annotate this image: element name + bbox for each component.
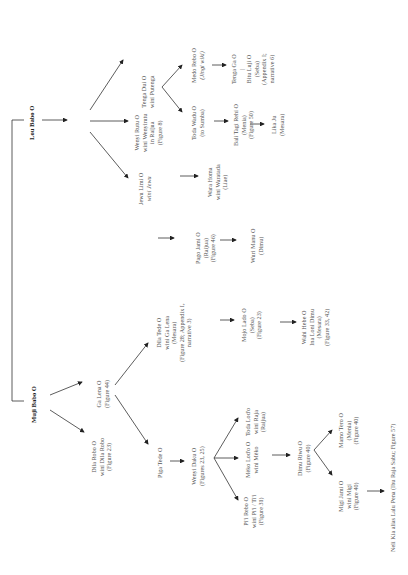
node-label: Pago Jami O [194, 232, 202, 264]
node-label: (Figure 46) [209, 232, 217, 264]
node-label: Tenga Dui O [140, 76, 148, 108]
node-label: Wara Homa [206, 164, 214, 200]
node-label: Lika Ju [270, 114, 278, 136]
node-label: (Menia) [345, 413, 353, 448]
node-label: Ina Loni Dimu [308, 309, 316, 346]
node-label: wini Jewu [145, 173, 153, 205]
node-label: Toda Wadu O [190, 106, 198, 140]
node-dimu-riwu: Dimu Riwu O (Figure 40) [296, 441, 311, 476]
node-neli-kia: Neli Kia alias Lalu Pena (Ibu Raja Sabu;… [389, 424, 397, 552]
node-bali-tagi: Bali Tagi Rehi O (Menia) (Figure 50) [232, 104, 255, 146]
node-label: Mamo Tero O [337, 413, 345, 448]
node-label: (Figure 40) [352, 413, 360, 448]
node-label: Wahi Hebe O [300, 309, 308, 346]
node-label: (Raijua) [202, 232, 210, 264]
node-label: (Figure 23) [105, 438, 113, 476]
node-label: (Figures 23, 25) [198, 446, 206, 486]
node-wara-homa: Wara Homa wini Waratada (Liae) [206, 164, 229, 200]
node-label: Neli Kia alias Lalu Pena (Ibu Raja Sabu;… [389, 424, 397, 552]
node-dila-tede: Dila Tede O wini Ga Lena (Mesara) (Figur… [155, 304, 193, 362]
node-label: wini Migi [345, 481, 353, 512]
node-meko-lodo: Mèko Lod'o O wini Mèko [244, 442, 259, 478]
node-label: wini Pi'i / Ti'i [250, 495, 258, 528]
root-bracket-line [12, 120, 24, 401]
node-label: (Figure 40) [304, 441, 312, 476]
node-mamo-tero: Mamo Tero O (Menia) (Figure 40) [337, 413, 360, 448]
node-label: Dila Robo O [90, 438, 98, 476]
node-label: (Seba) [253, 53, 261, 85]
node-label: Bali Tagi Rehi O [232, 104, 240, 146]
node-toda-wadu: Toda Wadu O (to Sumba) [190, 106, 205, 140]
node-toda-lodo: Toda Lod'o wini Raja (Raijua) [244, 408, 267, 436]
node-label: wini Ga Lena [163, 304, 171, 362]
node-label: wini Mèko [252, 442, 260, 478]
node-label: (Figure 31) [257, 495, 265, 528]
node-label: (Figure 44) [103, 380, 111, 408]
node-label: Mojo Lado O [240, 308, 248, 342]
node-label: wini Dila Robo [98, 438, 106, 476]
node-label: Wuri Manu O [249, 229, 257, 263]
node-label: (Figure 28; Appendix I, [178, 304, 186, 362]
node-label: (Liae) [221, 164, 229, 200]
node-tenga-ga: Tenga Ga O | Bitu Luji O (Seba) (Appendi… [230, 53, 276, 85]
node-label: Tenga Ga O [230, 53, 238, 85]
node-label: (Figure 8) [156, 114, 164, 152]
node-label: (Dimu) [257, 229, 265, 263]
node-label: (Raijua) [259, 408, 267, 436]
node-label: (Mesara) [278, 114, 286, 136]
node-label: Muji Babo O [30, 386, 38, 423]
node-label: Wenyi Rutu O [133, 114, 141, 152]
node-mojo-lado: Mojo Lado O (Seba) (Figure 23) [240, 308, 263, 342]
node-label: wini Putenga [148, 76, 156, 108]
node-jewu-limi: Jewu Limi O wini Jewu [137, 173, 152, 205]
node-label: Piga Tede O [156, 448, 164, 478]
node-piga-tede: Piga Tede O [156, 448, 164, 478]
node-label: Lou Babo O [28, 106, 36, 140]
node-label: wini Wenyirutu [141, 114, 149, 152]
node-label: (Figure 23) [255, 308, 263, 342]
node-label: Toda Lod'o [244, 408, 252, 436]
node-label: (Figure 40) [352, 481, 360, 512]
node-label: (Jingi wiki) [198, 48, 206, 83]
node-label: (Menia) [240, 104, 248, 146]
node-label: Mèko Lod'o O [244, 442, 252, 478]
node-label: wini Raja [252, 408, 260, 436]
node-label: (Figure 50) [247, 104, 255, 146]
node-wuri-manu: Wuri Manu O (Dimu) [249, 229, 264, 263]
node-wahi-hebe: Wahi Hebe O Ina Loni Dimu (Mesara) (Figu… [300, 309, 330, 346]
node-wenyi-rutu: Wenyi Rutu O wini Wenyirutu in Raijua (F… [133, 114, 163, 152]
node-tenga-dui: Tenga Dui O wini Putenga [140, 76, 155, 108]
node-label: (Seba) [248, 308, 256, 342]
node-wenyi-daku: Wenyi Daku O (Figures 23, 25) [190, 446, 205, 486]
node-label: Wenyi Daku O [190, 446, 198, 486]
node-lika-ju: Lika Ju (Mesara) [270, 114, 285, 136]
node-label: Jewu Limi O [137, 173, 145, 205]
node-medo-rebo: Medo Rebo O (Jingi wiki) [190, 48, 205, 83]
node-label: Pi'i Rebo O [242, 495, 250, 528]
node-label: | [238, 53, 246, 85]
node-label: (Figure 33, 42) [323, 309, 331, 346]
node-label: Bitu Luji O [245, 53, 253, 85]
node-label: narrative 3) [185, 304, 193, 362]
node-label: (Appendix I; [260, 53, 268, 85]
node-pii-rebo: Pi'i Rebo O wini Pi'i / Ti'i (Figure 31) [242, 495, 265, 528]
node-label: narrative 6) [268, 53, 276, 85]
node-lou-babo: Lou Babo O [28, 106, 36, 140]
node-label: Dila Tede O [155, 304, 163, 362]
node-label: wini Waratada [214, 164, 222, 200]
node-label: (Mesara) [315, 309, 323, 346]
node-migi-jami: Migi Jami O wini Migi (Figure 40) [337, 481, 360, 512]
node-label: Dimu Riwu O [296, 441, 304, 476]
node-dila-robo: Dila Robo O wini Dila Robo (Figure 23) [90, 438, 113, 476]
node-label: (to Sumba) [198, 106, 206, 140]
node-muji-babo: Muji Babo O [30, 386, 38, 423]
node-label: Migi Jami O [337, 481, 345, 512]
node-pago-jami: Pago Jami O (Raijua) (Figure 46) [194, 232, 217, 264]
node-ga-lena: Ga Lena O (Figure 44) [95, 380, 110, 408]
node-label: in Raijua [148, 114, 156, 152]
node-label: Medo Rebo O [190, 48, 198, 83]
node-label: (Mesara) [170, 304, 178, 362]
node-label: Ga Lena O [95, 380, 103, 408]
